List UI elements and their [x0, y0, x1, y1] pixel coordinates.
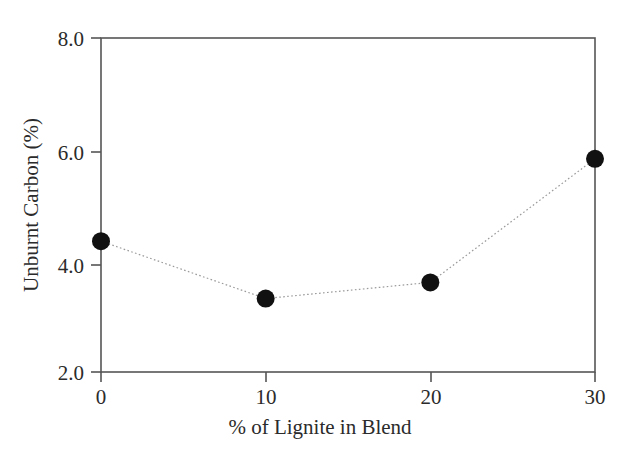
- series-group: [92, 150, 604, 308]
- chart-figure: 8.0 6.0 4.0 2.0 0 10 20 30 % of Lignite …: [0, 0, 639, 455]
- x-tick-label-10: 10: [256, 385, 277, 409]
- x-tick-label-20: 20: [421, 385, 442, 409]
- y-axis-title: Unburnt Carbon (%): [19, 118, 43, 292]
- data-point: [586, 150, 604, 168]
- data-point: [92, 232, 110, 250]
- x-axis-title: % of Lignite in Blend: [228, 415, 412, 439]
- y-tick-label-6: 6.0: [58, 141, 84, 165]
- series-connector-line: [101, 159, 595, 299]
- y-tick-label-2: 2.0: [58, 361, 84, 385]
- line-chart: 8.0 6.0 4.0 2.0 0 10 20 30 % of Lignite …: [0, 0, 639, 455]
- plot-frame: [101, 38, 595, 372]
- x-tick-label-0: 0: [96, 385, 107, 409]
- x-tick-label-30: 30: [585, 385, 606, 409]
- y-tick-label-4: 4.0: [58, 254, 84, 278]
- data-point: [257, 290, 275, 308]
- series-markers: [92, 150, 604, 308]
- y-tick-label-8: 8.0: [58, 27, 84, 51]
- data-point: [421, 273, 439, 291]
